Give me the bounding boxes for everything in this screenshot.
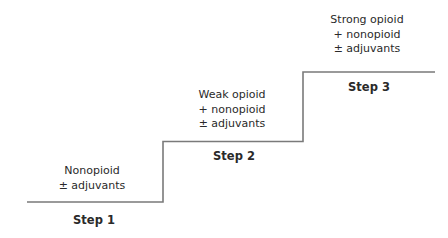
step-2-line-1: Weak opioid [182,88,282,103]
step-2-label: Step 2 [194,149,274,163]
step-2-line-3: ± adjuvants [182,117,282,132]
step-3-line-2: + nonopioid [312,28,422,43]
step-1-line-2: ± adjuvants [42,179,142,194]
step-3-treatment: Strong opioid + nonopioid ± adjuvants [312,13,422,57]
step-2-line-2: + nonopioid [182,103,282,118]
step-3-label: Step 3 [329,80,409,94]
step-1-label: Step 1 [54,213,134,227]
step-3-line-3: ± adjuvants [312,42,422,57]
step-1-treatment: Nonopioid ± adjuvants [42,164,142,193]
step-2-treatment: Weak opioid + nonopioid ± adjuvants [182,88,282,132]
step-3-line-1: Strong opioid [312,13,422,28]
step-1-line-1: Nonopioid [42,164,142,179]
